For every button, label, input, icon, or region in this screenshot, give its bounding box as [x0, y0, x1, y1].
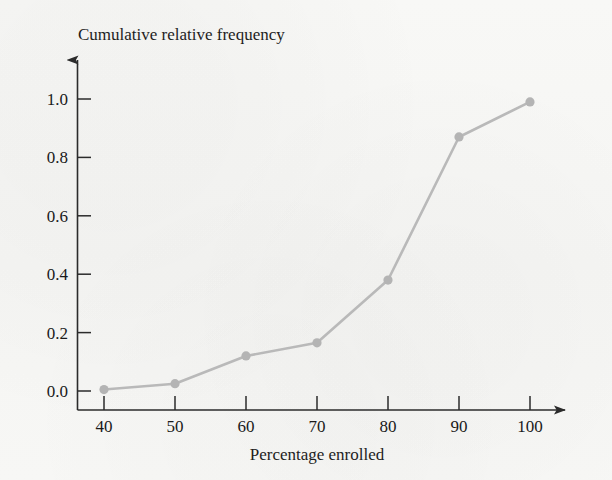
- x-tick-label: 50: [167, 417, 184, 436]
- data-point-marker: [383, 275, 392, 284]
- y-tick-label: 0.4: [47, 265, 69, 284]
- x-tick-label: 60: [238, 417, 255, 436]
- y-tick-label: 0.0: [47, 382, 68, 401]
- x-tick-label: 70: [309, 417, 326, 436]
- y-tick-label: 0.6: [47, 207, 68, 226]
- data-point-marker: [241, 351, 250, 360]
- y-tick-label: 1.0: [47, 90, 68, 109]
- x-axis-title: Percentage enrolled: [250, 445, 385, 464]
- data-point-marker: [170, 379, 179, 388]
- data-series-cumulative-relative-frequency: [99, 97, 534, 394]
- cumulative-frequency-figure: Cumulative relative frequency 1.0 0.8 0.…: [0, 0, 612, 480]
- y-tick-label: 0.2: [47, 324, 68, 343]
- x-tick-label: 90: [451, 417, 468, 436]
- y-axis-ticks: 1.0 0.8 0.6 0.4 0.2 0.0: [47, 90, 91, 401]
- x-tick-label: 40: [96, 417, 113, 436]
- x-tick-label: 100: [517, 417, 543, 436]
- x-axis-ticks: 40 50 60 70 80 90 100: [96, 396, 543, 436]
- y-axis-title: Cumulative relative frequency: [78, 25, 285, 44]
- data-point-marker: [525, 97, 534, 106]
- data-point-marker: [312, 338, 321, 347]
- y-tick-label: 0.8: [47, 148, 68, 167]
- x-tick-label: 80: [380, 417, 397, 436]
- data-point-marker: [454, 132, 463, 141]
- series-markers: [99, 97, 534, 394]
- cumulative-relative-frequency-chart: Cumulative relative frequency 1.0 0.8 0.…: [0, 0, 612, 480]
- data-point-marker: [99, 385, 108, 394]
